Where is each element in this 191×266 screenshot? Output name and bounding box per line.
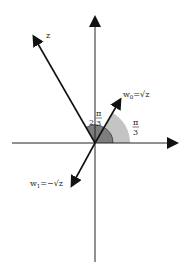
vector-z [34, 37, 95, 143]
label-w0: w0=√z [123, 90, 149, 100]
complex-plane-diagram: z w0=√z w1=−√z 2 π 3 π 3 [0, 0, 191, 266]
vector-w1 [72, 143, 95, 185]
label-w1: w1=−√z [30, 179, 63, 189]
svg-text:3: 3 [133, 128, 138, 137]
label-angle-pi-over-3: π 3 [133, 118, 140, 137]
svg-text:3: 3 [96, 119, 101, 128]
svg-text:π: π [133, 118, 138, 127]
label-angle-2pi-over-3: 2 π 3 [89, 109, 102, 128]
svg-text:2: 2 [89, 118, 94, 127]
label-z: z [46, 31, 50, 40]
svg-text:π: π [96, 109, 101, 118]
